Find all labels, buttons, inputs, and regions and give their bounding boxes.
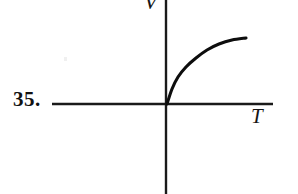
volume-axis-label: V — [144, 0, 157, 12]
time-axis-label: T — [251, 106, 263, 127]
volume-curve — [167, 38, 246, 104]
coordinate-plot — [0, 0, 298, 194]
figure-container: 35. V T — [0, 0, 298, 194]
